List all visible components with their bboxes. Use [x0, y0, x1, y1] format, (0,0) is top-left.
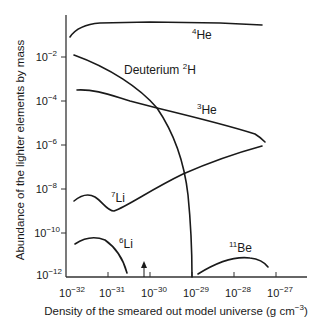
y-axis-title: Abundance of the lighter elements by mas…	[14, 39, 26, 260]
y-tick-label: 10−4	[36, 93, 58, 107]
label-he4: 4He	[192, 27, 212, 42]
abundance-chart: 10−2 10−4 10−6 10−8 10−10 10−12 10−32 10…	[0, 0, 322, 328]
x-tick-label: 10−27	[267, 285, 293, 299]
x-tick-label: 10−30	[141, 285, 167, 299]
label-li7: 7Li	[111, 190, 125, 205]
y-tick-label: 10−6	[36, 137, 58, 151]
y-tick-label: 10−12	[36, 267, 62, 281]
axes	[66, 15, 307, 277]
curve-deuterium	[74, 55, 192, 277]
y-tick-label: 10−8	[36, 181, 58, 195]
y-tick-label: 10−2	[36, 49, 58, 63]
y-ticks	[61, 57, 66, 233]
x-tick-label: 10−29	[183, 285, 209, 299]
x-axis-title: Density of the smeared out model univers…	[44, 303, 308, 317]
curve-labels: 4He Deuterium 2H 3He 7Li 6Li 11Be	[111, 27, 252, 255]
curve-li7	[74, 146, 262, 211]
curve-he4	[70, 22, 262, 37]
curves	[70, 22, 268, 277]
x-tick-label: 10−28	[225, 285, 251, 299]
y-tick-labels: 10−2 10−4 10−6 10−8 10−10 10−12	[34, 49, 62, 281]
arrow-up-icon	[141, 261, 147, 277]
label-he3: 3He	[197, 102, 217, 117]
label-li6: 6Li	[119, 236, 133, 251]
x-tick-label: 10−32	[59, 285, 85, 299]
y-tick-label: 10−10	[34, 225, 60, 239]
label-deuterium: Deuterium 2H	[124, 62, 196, 77]
x-tick-labels: 10−32 10−31 10−30 10−29 10−28 10−27	[59, 285, 293, 299]
curve-be11	[198, 258, 268, 274]
label-be11: 11Be	[229, 240, 252, 255]
x-tick-label: 10−31	[99, 285, 125, 299]
